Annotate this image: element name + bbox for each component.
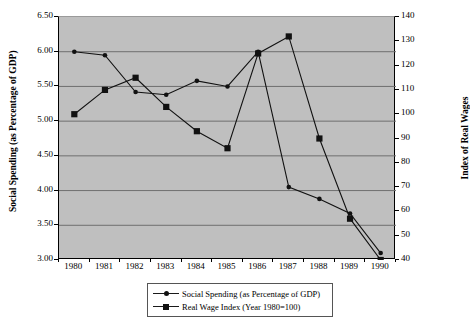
y-tick-mark <box>54 120 58 121</box>
x-tick-label: 1988 <box>309 262 327 271</box>
x-tick-label: 1981 <box>95 262 113 271</box>
legend-marker-square-icon <box>153 301 179 312</box>
data-point-square <box>71 111 77 117</box>
data-point-circle <box>225 84 230 89</box>
data-point-circle <box>103 53 108 58</box>
y2-tick-mark <box>395 113 399 114</box>
y2-tick-label: 50 <box>401 230 410 239</box>
plot-area <box>58 16 395 259</box>
x-tick-label: 1982 <box>126 262 144 271</box>
data-point-circle <box>378 251 383 256</box>
y-tick-label: 6.50 <box>37 11 53 20</box>
y-tick-label: 4.50 <box>37 150 53 159</box>
y2-tick-mark <box>395 162 399 163</box>
x-tick-label: 1990 <box>371 262 389 271</box>
chart-legend: Social Spending (as Percentage of GDP) R… <box>147 283 333 317</box>
y-tick-label: 4.00 <box>37 185 53 194</box>
data-point-square <box>163 104 169 110</box>
y2-tick-mark <box>395 89 399 90</box>
data-point-square <box>102 87 108 93</box>
y-tick-mark <box>54 155 58 156</box>
plot-svg <box>59 17 396 260</box>
y-tick-mark <box>54 85 58 86</box>
y2-tick-label: 70 <box>401 181 410 190</box>
x-tick-label: 1989 <box>340 262 358 271</box>
y-tick-label: 3.50 <box>37 219 53 228</box>
right-axis-tick-labels: 405060708090100110120130140 <box>401 0 431 321</box>
data-point-square <box>316 135 322 141</box>
y2-tick-label: 40 <box>401 254 410 263</box>
y-tick-mark <box>54 51 58 52</box>
y2-tick-label: 80 <box>401 157 410 166</box>
y2-tick-label: 130 <box>401 35 415 44</box>
data-point-square <box>224 145 230 151</box>
x-tick-label: 1983 <box>156 262 174 271</box>
legend-item[interactable]: Real Wage Index (Year 1980=100) <box>153 300 327 313</box>
legend-item-label: Real Wage Index (Year 1980=100) <box>179 302 300 312</box>
y2-tick-mark <box>395 138 399 139</box>
y-tick-label: 5.00 <box>37 115 53 124</box>
data-point-square <box>194 128 200 134</box>
x-tick-label: 1984 <box>187 262 205 271</box>
y2-tick-label: 100 <box>401 108 415 117</box>
y2-tick-label: 90 <box>401 133 410 142</box>
legend-item-label: Social Spending (as Percentage of GDP) <box>179 289 320 299</box>
y-tick-mark <box>54 190 58 191</box>
y2-tick-label: 110 <box>401 84 414 93</box>
x-tick-label: 1985 <box>218 262 236 271</box>
right-axis-title: Index of Real Wages <box>460 63 470 213</box>
y2-tick-mark <box>395 40 399 41</box>
y2-tick-mark <box>395 210 399 211</box>
y2-tick-mark <box>395 259 399 260</box>
data-point-circle <box>286 185 291 190</box>
data-point-circle <box>195 79 200 84</box>
y-tick-label: 3.00 <box>37 254 53 263</box>
legend-item[interactable]: Social Spending (as Percentage of GDP) <box>153 287 327 300</box>
data-point-circle <box>317 197 322 202</box>
data-point-square <box>255 50 261 56</box>
x-tick-label: 1986 <box>248 262 266 271</box>
y2-tick-label: 140 <box>401 11 415 20</box>
y2-tick-label: 60 <box>401 205 410 214</box>
y-tick-mark <box>54 224 58 225</box>
y2-tick-mark <box>395 16 399 17</box>
data-point-square <box>286 33 292 39</box>
y-tick-mark <box>54 259 58 260</box>
y-tick-label: 6.00 <box>37 46 53 55</box>
series-line <box>74 52 380 253</box>
data-point-circle <box>164 92 169 97</box>
y2-tick-mark <box>395 65 399 66</box>
left-axis-tick-labels: 3.003.504.004.505.005.506.006.50 <box>0 0 53 321</box>
data-point-square <box>347 216 353 222</box>
data-point-circle <box>133 90 138 95</box>
data-point-square <box>132 75 138 81</box>
y-tick-mark <box>54 16 58 17</box>
x-tick-label: 1987 <box>279 262 297 271</box>
y2-tick-label: 120 <box>401 60 415 69</box>
data-point-circle <box>72 49 77 54</box>
y-tick-label: 5.50 <box>37 80 53 89</box>
y2-tick-mark <box>395 235 399 236</box>
legend-marker-circle-icon <box>153 288 179 299</box>
y2-tick-mark <box>395 186 399 187</box>
x-tick-label: 1980 <box>64 262 82 271</box>
x-axis-tick-labels: 1980198119821983198419851986198719881989… <box>58 262 395 276</box>
